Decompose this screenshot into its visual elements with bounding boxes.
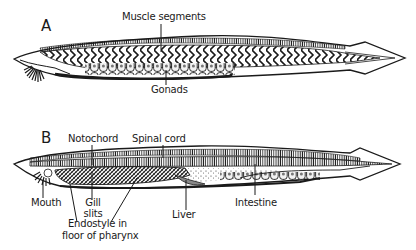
panel-label-a: A: [41, 19, 51, 34]
label-muscle-segments: Muscle segments: [122, 11, 206, 22]
label-mouth: Mouth: [31, 197, 61, 208]
panel-label-b: B: [41, 131, 51, 146]
label-endostyle-line2: floor of pharynx: [62, 230, 139, 241]
panel-a-body: [14, 36, 405, 82]
leader-endostyle-a: [70, 184, 77, 222]
label-spinal-cord: Spinal cord: [132, 133, 186, 144]
label-gill-slits-line1: Gill: [83, 197, 103, 208]
lancelet-diagram: A B Muscle segments Gonads Notochord Spi…: [0, 0, 416, 250]
panel-b-body: [14, 146, 400, 188]
label-gonads: Gonads: [151, 84, 188, 95]
diagram-illustration: [0, 0, 416, 250]
label-liver: Liver: [172, 209, 196, 220]
label-notochord: Notochord: [68, 133, 118, 144]
label-endostyle-line1: Endostyle in: [68, 218, 127, 229]
label-intestine: Intestine: [235, 197, 277, 208]
